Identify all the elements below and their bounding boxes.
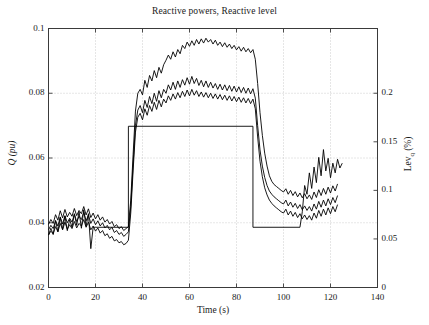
y-tick-label-left-3: 0.08 [1,87,45,97]
y-axis-label-right-sub: q [408,153,415,156]
y-axis-label-right-base: Lev [403,157,413,172]
y-axis-label-right: Levq (%) [403,122,415,186]
x-tick-label-3: 60 [175,292,205,302]
x-tick-label-2: 40 [128,292,158,302]
y-tick-label-right-4: 0.2 [382,87,412,97]
y-tick-label-right-2: 0.1 [382,184,412,194]
data-series-layer [49,38,343,248]
x-tick-label-1: 20 [81,292,111,302]
x-tick-label-5: 100 [269,292,299,302]
y-tick-label-left-0: 0.02 [1,282,45,292]
y-tick-label-left-2: 0.06 [1,152,45,162]
y-tick-label-right-3: 0.15 [382,136,412,146]
x-tick-label-4: 80 [222,292,252,302]
y-tick-label-right-0: 0 [382,282,412,292]
x-tick-label-6: 120 [316,292,346,302]
y-tick-label-left-4: 0.1 [1,23,45,33]
figure-container: Reactive powers, Reactive level Q (pu) L… [0,0,429,325]
x-tick-label-7: 140 [363,292,393,302]
y-tick-label-left-1: 0.04 [1,217,45,227]
x-tick-label-0: 0 [34,292,64,302]
plot-canvas [0,0,429,325]
x-axis-label: Time (s) [48,305,378,315]
series-line-0 [49,38,338,230]
series-line-1 [49,76,338,236]
series-line-3 [49,126,343,248]
y-tick-label-right-1: 0.05 [382,233,412,243]
